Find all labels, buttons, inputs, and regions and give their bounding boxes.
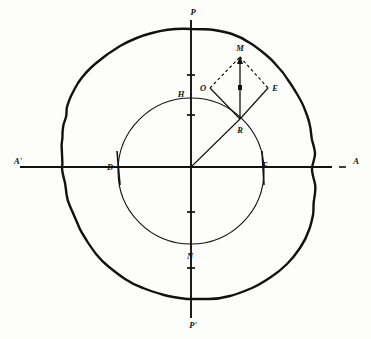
diagram-svg: P P' A' A D E H N M O E R	[0, 0, 371, 339]
edge-R-O	[210, 88, 240, 119]
label-point-H: H	[177, 89, 185, 99]
label-point-O: O	[200, 83, 206, 93]
label-point-M: M	[235, 43, 244, 53]
edge-R-E	[240, 88, 268, 119]
label-axis-A-prime: A'	[13, 156, 23, 166]
label-point-E-axis: E	[261, 160, 268, 170]
label-axis-A: A	[352, 156, 359, 166]
edge-E-M-dashed	[240, 57, 268, 88]
label-point-E-rhombus: E	[271, 83, 278, 93]
label-axis-P-top: P	[190, 7, 196, 17]
label-axis-P-bottom: P'	[189, 320, 197, 330]
figure-canvas: P P' A' A D E H N M O E R	[0, 0, 371, 339]
edge-O-M-dashed	[210, 57, 240, 88]
label-point-R: R	[236, 125, 243, 135]
label-point-D: D	[106, 162, 113, 172]
label-point-N: N	[186, 251, 194, 261]
vector-midpoint-mark	[238, 85, 242, 90]
radius-line-origin-to-R	[191, 119, 240, 167]
